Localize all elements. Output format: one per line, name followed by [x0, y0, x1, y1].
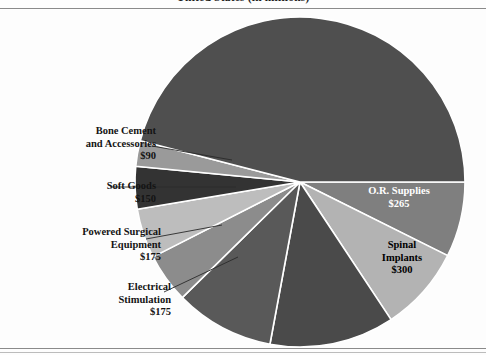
- label-soft-goods: Soft Goods $150: [6, 180, 156, 205]
- label-bone-cement-value: $90: [6, 150, 156, 163]
- label-spinal-implants: Spinal Implants $300: [352, 239, 452, 277]
- label-powered-surgical-line1: Powered Surgical: [6, 226, 161, 239]
- label-bone-cement: Bone Cement and Accessories $90: [6, 125, 156, 163]
- label-electrical-stimulation: Electrical Stimulation $175: [6, 281, 171, 319]
- label-powered-surgical: Powered Surgical Equipment $175: [6, 226, 161, 264]
- label-electrical-stimulation-line1: Electrical: [6, 281, 171, 294]
- label-spinal-implants-line2: Implants: [352, 252, 452, 265]
- label-or-supplies-line1: O.R. Supplies: [334, 185, 464, 198]
- chart-page: United States (in millions) Bone Cement …: [0, 0, 486, 355]
- divider-bottom-secondary: [0, 352, 486, 353]
- label-bone-cement-line1: Bone Cement: [6, 125, 156, 138]
- divider-bottom: [0, 348, 486, 349]
- label-electrical-stimulation-value: $175: [6, 306, 171, 319]
- label-soft-goods-value: $150: [6, 193, 156, 206]
- label-or-supplies-value: $265: [334, 198, 464, 211]
- label-spinal-implants-line1: Spinal: [352, 239, 452, 252]
- label-soft-goods-line1: Soft Goods: [6, 180, 156, 193]
- label-electrical-stimulation-line2: Stimulation: [6, 294, 171, 307]
- label-powered-surgical-line2: Equipment: [6, 239, 161, 252]
- label-powered-surgical-value: $175: [6, 251, 161, 264]
- label-bone-cement-line2: and Accessories: [6, 138, 156, 151]
- label-spinal-implants-value: $300: [352, 264, 452, 277]
- label-or-supplies: O.R. Supplies $265: [334, 185, 464, 210]
